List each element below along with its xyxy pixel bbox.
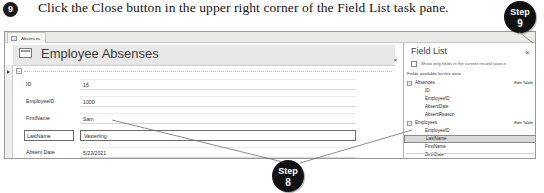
field-list-item[interactable]: AbsentReason xyxy=(404,111,536,119)
field-list-item-selected[interactable]: LastName xyxy=(404,135,536,143)
close-icon[interactable]: × xyxy=(522,47,533,58)
document-tab-strip: Absences xyxy=(5,32,535,43)
callout-number: 9 xyxy=(504,18,536,29)
form-detail-section: − ID 15 EmployeeID 1000 FirstName Sam La… xyxy=(14,67,394,157)
document-tab-absences[interactable]: Absences xyxy=(7,32,46,43)
callout-label: Step xyxy=(272,166,304,177)
field-value-input[interactable]: Sam xyxy=(80,113,356,124)
field-label: Absent Date xyxy=(24,147,74,158)
instruction-row: 9 Click the Close button in the upper ri… xyxy=(0,0,544,26)
collapse-icon[interactable]: − xyxy=(407,81,412,86)
field-list-tree: − Absences Edit Table ID EmployeeID Abse… xyxy=(404,79,536,159)
edit-table-link[interactable]: Edit Table xyxy=(514,119,533,127)
instruction-text: Click the Close button in the upper righ… xyxy=(38,0,449,16)
field-value-input[interactable]: Vasterling xyxy=(80,130,356,141)
form-view-icon xyxy=(19,48,32,58)
field-list-item[interactable]: ID xyxy=(404,87,536,95)
field-value-input[interactable]: 1000 xyxy=(80,96,356,107)
edit-table-link[interactable]: Edit Table xyxy=(514,79,533,87)
callout-label: Step xyxy=(504,7,536,18)
callout-badge-step-9: Step 9 xyxy=(504,1,536,33)
pane-divider xyxy=(406,153,534,154)
document-tab-label: Absences xyxy=(21,36,40,41)
field-list-pane: Field List × Show only fields in the cur… xyxy=(403,43,536,159)
form-area: Employee Absenses × − ID 15 EmployeeID 1… xyxy=(5,43,403,159)
collapse-icon[interactable]: − xyxy=(407,121,412,126)
field-label: ID xyxy=(24,79,74,90)
callout-number: 8 xyxy=(272,177,304,188)
section-divider xyxy=(24,71,392,72)
form-title: Employee Absenses xyxy=(41,45,159,63)
field-list-item[interactable]: FirstName xyxy=(404,143,536,151)
record-selector[interactable] xyxy=(5,65,13,159)
field-value-input[interactable]: 5/23/2021 xyxy=(80,147,356,158)
field-list-title: Field List xyxy=(411,46,447,56)
show-only-fields-label: Show only fields in the current record s… xyxy=(421,60,506,68)
step-number-bullet: 9 xyxy=(3,2,18,17)
collapse-section-button[interactable]: − xyxy=(16,68,22,74)
field-label: FirstName xyxy=(24,113,74,124)
fields-available-label: Fields available for this view: xyxy=(407,71,462,76)
form-icon xyxy=(11,36,17,41)
table-group-absences[interactable]: − Absences Edit Table xyxy=(404,79,536,87)
table-group-employees[interactable]: − Employees Edit Table xyxy=(404,119,536,127)
field-list-item[interactable]: AbsentDate xyxy=(404,103,536,111)
show-only-fields-toggle[interactable]: Show only fields in the current record s… xyxy=(411,60,535,68)
form-close-button[interactable]: × xyxy=(391,56,400,65)
callout-badge-step-8: Step 8 xyxy=(272,160,304,192)
table-name: Employees xyxy=(415,119,437,127)
show-fields-icon xyxy=(411,61,417,67)
field-list-item[interactable]: EmployeeID xyxy=(404,127,536,135)
field-value-input[interactable]: 15 xyxy=(80,79,356,90)
field-list-item[interactable]: EmployeeID xyxy=(404,95,536,103)
table-name: Absences xyxy=(415,79,435,87)
access-screenshot: Absences Employee Absenses × − ID 15 Emp… xyxy=(4,31,536,159)
field-label: LastName xyxy=(24,130,74,141)
field-label: EmployeeID xyxy=(24,96,74,107)
